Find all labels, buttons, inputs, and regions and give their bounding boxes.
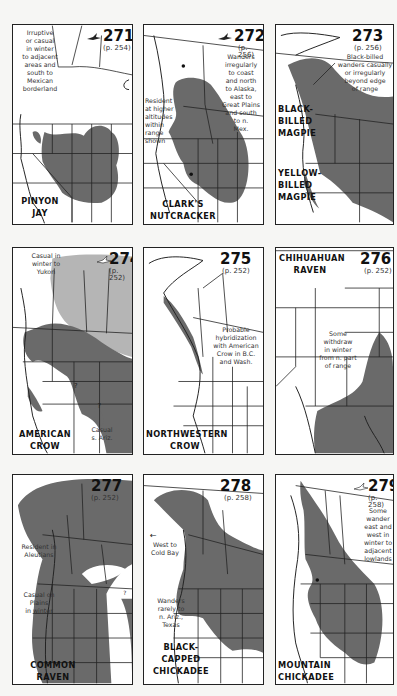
species-name: MOUNTAINCHICKADEE bbox=[278, 659, 340, 683]
map-number: 278 bbox=[220, 479, 251, 494]
map-number: 274 bbox=[109, 252, 133, 267]
species-name: COMMONRAVEN bbox=[27, 659, 79, 683]
map-western-us: ? bbox=[13, 475, 132, 684]
species-name-yellow-billed-magpie: YELLOW-BILLEDMAGPIE bbox=[278, 167, 326, 203]
range-map-common-raven: ? 277 (p. 252) Resident inAleutians Casu… bbox=[12, 474, 133, 685]
species-name: CHIHUAHUANRAVEN bbox=[279, 252, 341, 276]
range-note-secondary: Casuals. Ariz. bbox=[87, 426, 117, 442]
arrow-left-icon: ← bbox=[150, 531, 157, 540]
range-note: Somewandereast andwest inwinter toadjace… bbox=[362, 507, 394, 563]
bird-silhouette-icon bbox=[218, 33, 232, 41]
map-number: 276 bbox=[360, 252, 391, 267]
range-map-american-crow: ? ? 274 (p. 252) Casual inwinter toYukon… bbox=[12, 247, 133, 455]
page-reference: (p. 252) bbox=[364, 268, 392, 275]
range-note: Probablehybridizationwith AmericanCrow i… bbox=[208, 326, 264, 366]
species-name: CLARK'SNUTCRACKER bbox=[148, 198, 218, 222]
map-number: 271 bbox=[103, 29, 133, 44]
species-name: NORTHWESTERNCROW bbox=[146, 428, 224, 452]
svg-text:?: ? bbox=[98, 402, 102, 410]
range-map-mountain-chickadee: 279 (p. 258) Somewandereast andwest inwi… bbox=[275, 474, 394, 685]
range-map-chihuahuan-raven: 276 (p. 252) Somewithdrawin winterfrom n… bbox=[275, 247, 394, 455]
species-name: AMERICANCROW bbox=[15, 428, 75, 452]
svg-text:?: ? bbox=[123, 590, 126, 596]
range-map-pinyon-jay: 271 (p. 254) Irruptiveor casualin winter… bbox=[12, 24, 133, 225]
page-reference: (p. 254) bbox=[103, 45, 131, 52]
map-number: 275 bbox=[220, 252, 251, 267]
bird-silhouette-icon bbox=[354, 483, 368, 491]
page-reference: (p. 252) bbox=[109, 268, 132, 282]
page-reference: (p. 256) bbox=[354, 45, 382, 52]
range-note: West toCold Bay bbox=[146, 541, 184, 557]
range-note-secondary: Residentat higheraltitudeswithinrangesho… bbox=[145, 97, 177, 145]
range-note-secondary: Casual onPlainsin winter bbox=[19, 591, 59, 615]
range-note-secondary: Wandersrarely ton. Ariz.,Texas bbox=[152, 597, 190, 629]
map-number: 272 bbox=[234, 29, 264, 44]
range-note: Irruptiveor casualin winterto adjacentar… bbox=[15, 29, 65, 93]
range-note: Wandersirregularlyto coastand northto Al… bbox=[216, 53, 264, 133]
range-note: Casual inwinter toYukon bbox=[23, 252, 69, 276]
map-number: 273 bbox=[352, 29, 383, 44]
page-reference: (p. 258) bbox=[224, 495, 252, 502]
range-note: Black-billedwanders casuallyor irregular… bbox=[336, 53, 394, 93]
map-number: 277 bbox=[91, 479, 122, 494]
range-map-magpies: 273 (p. 256) Black-billedwanders casuall… bbox=[275, 24, 394, 225]
page-reference: (p. 252) bbox=[91, 495, 119, 502]
species-name-black-billed-magpie: BLACK-BILLEDMAGPIE bbox=[278, 103, 326, 139]
svg-text:?: ? bbox=[74, 382, 78, 390]
map-number: 279 bbox=[368, 479, 394, 494]
range-map-black-capped-chickadee: 278 (p. 258) ← West toCold Bay Wandersra… bbox=[143, 474, 264, 685]
species-name: BLACK-CAPPEDCHICKADEE bbox=[150, 641, 212, 677]
range-note: Resident inAleutians bbox=[17, 543, 61, 559]
bird-silhouette-icon bbox=[87, 33, 101, 41]
range-note: Somewithdrawin winterfrom n. partof rang… bbox=[312, 330, 364, 370]
range-map-northwestern-crow: 275 (p. 252) Probablehybridizationwith A… bbox=[143, 247, 264, 455]
page-reference: (p. 252) bbox=[222, 268, 250, 275]
range-map-clarks-nutcracker: 272 (p. 256) Wandersirregularlyto coasta… bbox=[143, 24, 264, 225]
species-name: PINYONJAY bbox=[17, 195, 63, 219]
